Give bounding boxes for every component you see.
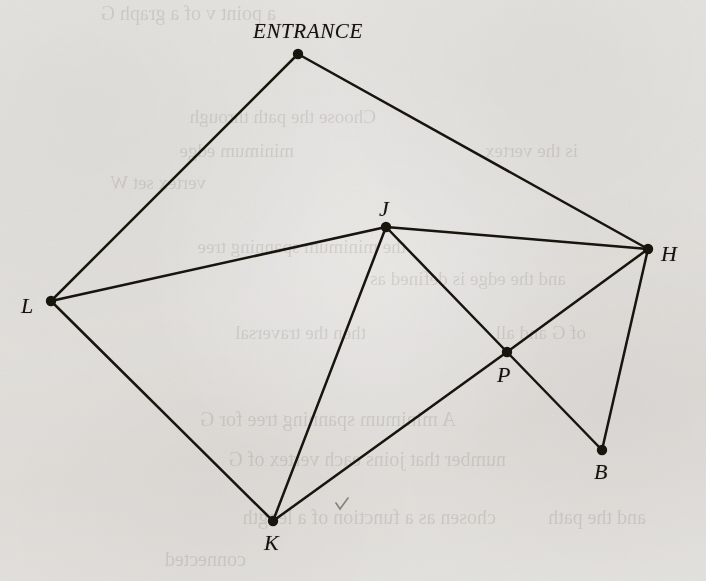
pencil-check-mark <box>336 498 348 509</box>
graph-node-h[interactable] <box>643 244 653 254</box>
edge-j-h <box>386 227 648 249</box>
node-label-l: L <box>21 295 33 317</box>
node-label-entrance: ENTRANCE <box>253 21 363 42</box>
graph-node-k[interactable] <box>268 516 278 526</box>
edge-entrance-h <box>298 54 648 249</box>
graph-node-b[interactable] <box>597 445 607 455</box>
node-label-k: K <box>264 532 279 554</box>
edge-p-k <box>273 352 507 521</box>
edge-entrance-l <box>51 54 298 301</box>
node-label-h: H <box>661 243 677 265</box>
hand-annotations <box>336 498 348 509</box>
diagram-page: a point v of a graph GChoose the path th… <box>0 0 706 581</box>
edge-p-b <box>507 352 602 450</box>
edge-l-j <box>51 227 386 301</box>
graph-edges <box>51 54 648 521</box>
graph-node-j[interactable] <box>381 222 391 232</box>
edge-l-k <box>51 301 273 521</box>
edge-j-p <box>386 227 507 352</box>
node-label-b: B <box>594 461 607 483</box>
node-label-p: P <box>497 364 510 386</box>
graph-node-p[interactable] <box>502 347 512 357</box>
graph-node-l[interactable] <box>46 296 56 306</box>
graph-nodes <box>46 49 653 526</box>
edge-h-b <box>602 249 648 450</box>
graph-node-entrance[interactable] <box>293 49 303 59</box>
edge-j-k <box>273 227 386 521</box>
node-label-j: J <box>379 198 389 220</box>
graph-canvas <box>0 0 706 581</box>
